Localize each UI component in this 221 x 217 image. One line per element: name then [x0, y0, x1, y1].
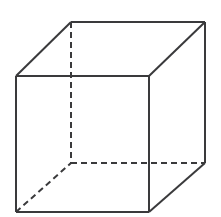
edge-connect-bottom-left-hidden [16, 163, 71, 212]
figure-canvas [0, 0, 221, 217]
edge-connect-top-right [149, 22, 205, 76]
visible-edge-group [16, 22, 205, 212]
cube-diagram [0, 0, 221, 217]
edge-connect-top-left [16, 22, 71, 76]
edge-connect-bottom-right [149, 163, 205, 212]
